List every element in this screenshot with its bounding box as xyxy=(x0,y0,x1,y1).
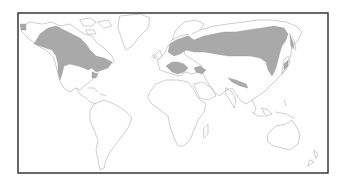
coast-central-america xyxy=(76,88,106,104)
coast-new-zealand xyxy=(308,150,318,166)
map-canvas xyxy=(0,0,345,182)
coast-british-isles xyxy=(152,50,162,60)
range-north-america xyxy=(34,26,112,80)
coast-australia xyxy=(268,120,300,150)
coast-se-asia xyxy=(252,100,294,118)
coast-south-america xyxy=(90,100,132,170)
world-map xyxy=(0,0,345,182)
coast-madagascar xyxy=(204,124,208,138)
coast-india xyxy=(226,88,236,108)
range-japan xyxy=(284,60,288,70)
range-alaska-tip xyxy=(20,24,26,30)
range-kamchatka xyxy=(290,36,294,48)
coast-greenland xyxy=(118,14,150,50)
range-east-us xyxy=(92,72,98,78)
coast-arctic-islands xyxy=(80,18,112,34)
coast-africa xyxy=(148,80,206,146)
range-southern-europe xyxy=(166,62,188,74)
range-central-asia-streak xyxy=(228,78,248,88)
